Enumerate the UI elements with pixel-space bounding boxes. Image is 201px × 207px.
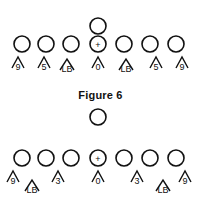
figure-caption: Figure 6 [0,89,201,101]
defender-label: LB [157,185,168,195]
offense-player-circle [38,36,54,52]
offense-player-circle [63,36,79,52]
offense-player-circle [90,109,106,125]
defender-label: 3 [134,176,139,186]
defender-label: LB [61,64,72,74]
defender-label: 9 [10,176,15,186]
offense-player-circle [90,18,106,34]
defender-label: 0 [95,62,100,72]
offense-player-circle [116,150,132,166]
formation-diagram: +95LB0LB59+9LB303LB9 [0,0,201,207]
center-mark: + [95,40,100,50]
offense-player-circle [142,36,158,52]
offense-player-circle [14,36,30,52]
offense-player-circle [14,150,30,166]
offense-player-circle [168,150,184,166]
defender-label: 0 [95,176,100,186]
offense-player-circle [63,150,79,166]
defender-label: 5 [41,62,46,72]
defender-label: 9 [179,62,184,72]
center-mark: + [95,154,100,164]
defender-label: 9 [15,62,20,72]
offense-player-circle [38,150,54,166]
defender-label: LB [26,185,37,195]
defender-label: 3 [55,176,60,186]
defender-label: LB [120,64,131,74]
offense-player-circle [168,36,184,52]
offense-player-circle [116,36,132,52]
defender-label: 5 [153,62,158,72]
offense-player-circle [142,150,158,166]
defender-label: 9 [182,176,187,186]
